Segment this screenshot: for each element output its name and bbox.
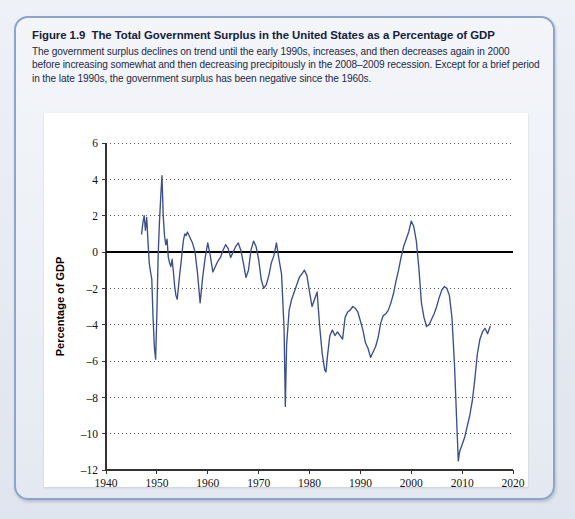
figure-panel: Figure 1.9 The Total Government Surplus …	[14, 16, 555, 500]
x-tick-label-1940: 1940	[95, 477, 118, 487]
y-tick-label--10: –10	[80, 428, 99, 440]
figure-title-text: The Total Government Surplus in the Unit…	[92, 29, 495, 41]
y-tick-label--2: –2	[86, 283, 99, 295]
figure-number: Figure 1.9	[32, 29, 85, 41]
x-tick-label-1980: 1980	[298, 477, 321, 487]
figure-title: Figure 1.9 The Total Government Surplus …	[32, 28, 540, 43]
y-tick-label--6: –6	[86, 355, 99, 367]
x-tick-labels-group: 194019501960197019801990200020102020	[95, 477, 525, 487]
y-tick-label-0: 0	[92, 246, 98, 258]
y-tick-label--8: –8	[86, 392, 99, 404]
y-tick-label-6: 6	[92, 137, 98, 149]
x-tick-label-1960: 1960	[196, 477, 219, 487]
x-tick-label-1950: 1950	[145, 477, 168, 487]
x-tick-label-2020: 2020	[502, 477, 525, 487]
y-tick-label--4: –4	[86, 319, 99, 331]
data-series-group	[142, 176, 491, 461]
y-tick-label-4: 4	[92, 174, 98, 186]
x-tick-label-2000: 2000	[400, 477, 423, 487]
x-tick-label-1990: 1990	[349, 477, 372, 487]
y-tick-labels-group: 6420–2–4–6–8–10–12	[80, 137, 99, 476]
figure-header: Figure 1.9 The Total Government Surplus …	[32, 28, 540, 85]
surplus-line-chart: 6420–2–4–6–8–10–12 194019501960197019801…	[44, 113, 528, 487]
y-tick-label-2: 2	[92, 210, 98, 222]
y-tick-label--12: –12	[80, 464, 99, 476]
figure-caption: The government surplus declines on trend…	[32, 45, 540, 85]
x-tick-label-1970: 1970	[247, 477, 270, 487]
y-axis-title: Percentage of GDP	[54, 257, 66, 357]
gridlines-group	[106, 143, 513, 470]
data-line-0	[142, 176, 491, 461]
screenshot-page: Figure 1.9 The Total Government Surplus …	[0, 0, 575, 519]
x-tick-label-2010: 2010	[451, 477, 474, 487]
plot-card: 6420–2–4–6–8–10–12 194019501960197019801…	[44, 113, 528, 487]
